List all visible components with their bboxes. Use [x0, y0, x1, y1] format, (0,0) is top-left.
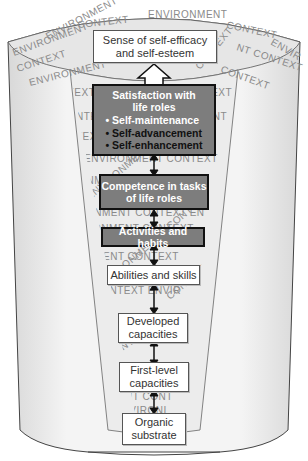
level-label: Organic — [135, 416, 174, 429]
bullet-self-enhancement: • Self-enhancement — [105, 139, 202, 151]
level-label: Abilities and skills — [110, 269, 196, 282]
level-first-level: First-level capacities — [119, 362, 189, 392]
level-self-efficacy: Sense of self-efficacy and self-esteem — [93, 30, 217, 63]
level-label: capacities — [130, 377, 179, 390]
bullet-self-advancement: • Self-advancement — [105, 127, 202, 139]
level-label: substrate — [131, 429, 176, 442]
level-label: First-level — [130, 364, 178, 377]
level-label: Activities and habits — [103, 225, 203, 249]
level-label: capacities — [129, 328, 178, 341]
level-label: Sense of self-efficacy — [103, 34, 207, 47]
level-competence: Competence in tasks of life roles — [99, 174, 209, 210]
level-developed: Developed capacities — [118, 313, 188, 343]
level-satisfaction: Satisfaction with life roles • Self-main… — [92, 84, 216, 156]
level-abilities: Abilities and skills — [107, 265, 200, 285]
funnel-diagram: ENVIRONMENT CONTEXT ENVIRONMENT CONTEXT … — [0, 0, 308, 461]
level-label: Satisfaction with — [112, 89, 195, 101]
svg-text:ENVIRONMENT: ENVIRONMENT — [148, 9, 227, 20]
satisfaction-bullets: • Self-maintenance • Self-advancement • … — [105, 114, 202, 150]
level-label: life roles — [132, 101, 175, 113]
level-label: of life roles — [126, 192, 182, 204]
level-activities: Activities and habits — [101, 227, 205, 247]
level-label: Competence in tasks — [101, 180, 206, 192]
bullet-self-maintenance: • Self-maintenance — [105, 114, 202, 126]
level-organic: Organic substrate — [122, 413, 186, 445]
level-label: Developed — [127, 315, 180, 328]
level-label: and self-esteem — [116, 47, 194, 60]
